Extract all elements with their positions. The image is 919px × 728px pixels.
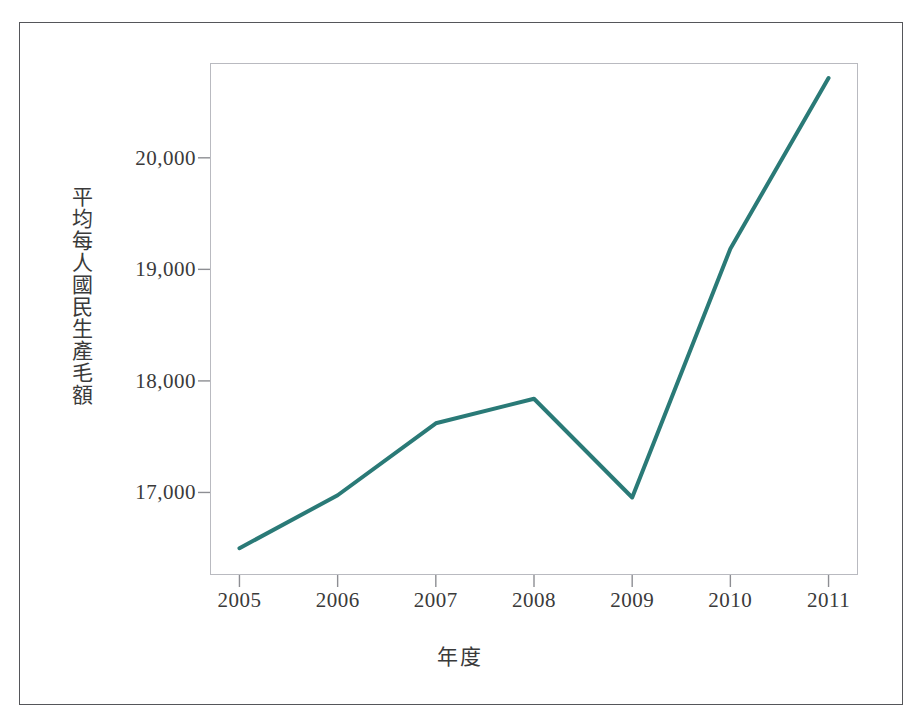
plot-area [210,63,858,575]
x-tick-label: 2009 [610,588,654,613]
y-tick-label: 18,000 [135,368,196,393]
x-axis-title: 年度 [0,640,919,670]
x-tick-label: 2010 [708,588,752,613]
x-axis-tick-labels: 2005200620072008200920102011 [0,588,919,620]
x-tick-label: 2011 [807,588,850,613]
x-tick-label: 2007 [414,588,458,613]
figure-root: 平均每人國民生產毛額 20,00019,00018,00017,000 2005… [0,0,919,728]
x-tick-label: 2006 [316,588,360,613]
y-tick-label: 19,000 [135,257,196,282]
x-tick-label: 2008 [512,588,556,613]
y-tick-label: 20,000 [135,145,196,170]
y-axis-title: 平均每人國民生產毛額 [62,186,92,406]
x-tick-label: 2005 [217,588,261,613]
y-tick-label: 17,000 [135,480,196,505]
